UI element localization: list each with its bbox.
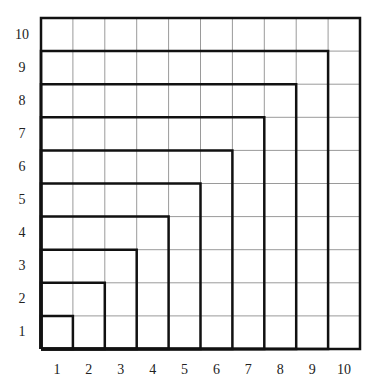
y-axis-label: 6 [10,159,34,175]
y-axis-label: 5 [10,192,34,208]
square-side-5 [41,184,201,350]
y-axis-label: 10 [10,27,34,43]
y-axis-label: 2 [10,291,34,307]
x-axis-label: 7 [236,362,260,378]
square-side-9 [41,51,328,349]
x-axis-label: 9 [300,362,324,378]
square-side-3 [41,250,137,349]
x-axis-label: 6 [204,362,228,378]
square-side-7 [41,117,264,349]
y-axis-label: 7 [10,126,34,142]
nested-squares-diagram [0,0,374,391]
x-axis-label: 10 [332,362,356,378]
y-axis-label: 8 [10,93,34,109]
y-axis-label: 1 [10,324,34,340]
y-axis-label: 3 [10,258,34,274]
x-axis-label: 2 [77,362,101,378]
x-axis-label: 8 [268,362,292,378]
y-axis-label: 9 [10,60,34,76]
x-axis-label: 3 [109,362,133,378]
x-axis-label: 4 [141,362,165,378]
x-axis-label: 5 [173,362,197,378]
x-axis-label: 1 [45,362,69,378]
square-side-1 [41,316,73,349]
y-axis-label: 4 [10,225,34,241]
